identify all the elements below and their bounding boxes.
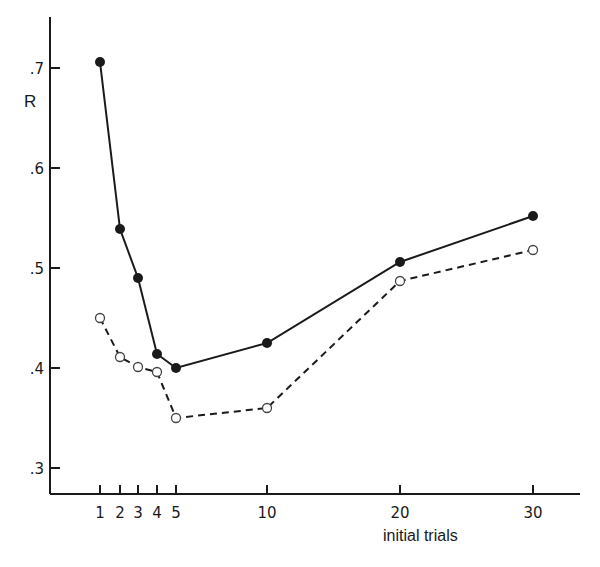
y-axis-label: R [24,92,36,111]
y-tick-label: .3 [30,460,44,478]
x-tick-label: 4 [152,504,162,522]
y-tick-label: .6 [30,160,44,178]
filled-circle-marker [152,349,162,359]
x-tick-label: 20 [390,504,409,522]
open-circle-marker [529,246,538,255]
x-tick-label: 3 [133,504,143,522]
filled-circle-marker [171,363,181,373]
x-ticks: 12345102030 [95,485,542,522]
open-circle-marker [134,363,143,372]
open-circle-marker [263,404,272,413]
x-tick-label: 30 [523,504,542,522]
x-tick-label: 2 [115,504,125,522]
open-circle-marker [172,414,181,423]
series-layer [95,57,538,423]
open-circle-marker [116,353,125,362]
filled-circle-marker [115,224,125,234]
filled-circle-marker [133,273,143,283]
x-tick-label: 5 [171,504,181,522]
y-tick-label: .7 [30,60,44,78]
open-circle-marker [396,277,405,286]
y-tick-label: .4 [30,360,44,378]
x-axis-label: initial trials [383,527,458,544]
solid-series-line [100,62,533,368]
y-ticks: .3.4.5.6.7 [30,60,60,478]
line-chart: .3.4.5.6.7 12345102030 R initial trials [0,0,600,567]
open-circle-marker [153,368,162,377]
x-tick-label: 10 [257,504,276,522]
x-tick-label: 1 [95,504,105,522]
dashed-series-line [100,250,533,418]
filled-circle-marker [262,338,272,348]
filled-circle-marker [95,57,105,67]
open-circle-marker [96,314,105,323]
filled-circle-marker [395,257,405,267]
filled-circle-marker [528,211,538,221]
y-tick-label: .5 [30,260,44,278]
